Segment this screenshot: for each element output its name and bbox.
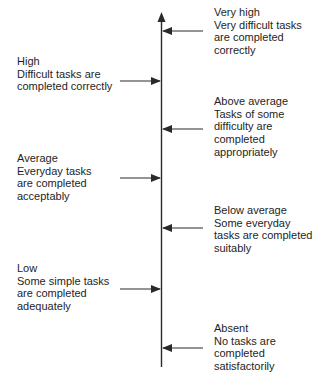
level-description-line: are completed (17, 287, 109, 300)
level-description-line: suitably (214, 242, 312, 255)
level-label-high: High Difficult tasks are completed corre… (17, 55, 112, 93)
level-description-line: tasks are completed (214, 229, 312, 242)
level-description-line: completed (214, 347, 276, 360)
level-label-below-average: Below average Some everyday tasks are co… (214, 204, 312, 255)
level-label-absent: Absent No tasks are completed satisfacto… (214, 322, 276, 373)
level-description-line: Some everyday (214, 217, 312, 230)
level-label-very-high: Very high Very difficult tasks are compl… (214, 6, 302, 57)
level-title: Average (17, 152, 92, 165)
level-label-above-average: Above average Tasks of some difficulty a… (214, 95, 288, 159)
level-description-line: are completed (214, 31, 302, 44)
level-description-line: adequately (17, 300, 109, 313)
level-description-line: Some simple tasks (17, 275, 109, 288)
level-description-line: Tasks of some (214, 108, 288, 121)
level-title: Below average (214, 204, 312, 217)
performance-scale-diagram: Very high Very difficult tasks are compl… (0, 0, 325, 387)
level-description-line: difficulty are (214, 120, 288, 133)
level-description-line: Very difficult tasks (214, 19, 302, 32)
vertical-axis (158, 12, 166, 367)
level-label-average: Average Everyday tasks are completed acc… (17, 152, 92, 203)
level-title: Low (17, 262, 109, 275)
axis-up-arrowhead-icon (158, 12, 166, 22)
level-description-line: completed (214, 133, 288, 146)
level-description-line: No tasks are (214, 335, 276, 348)
level-description-line: correctly (214, 44, 302, 57)
level-description-line: satisfactorily (214, 360, 276, 373)
level-description-line: acceptably (17, 190, 92, 203)
level-description-line: completed correctly (17, 80, 112, 93)
level-description-line: appropriately (214, 146, 288, 159)
level-title: Very high (214, 6, 302, 19)
level-description-line: are completed (17, 177, 92, 190)
level-description-line: Everyday tasks (17, 165, 92, 178)
level-title: Above average (214, 95, 288, 108)
level-description-line: Difficult tasks are (17, 68, 112, 81)
level-title: High (17, 55, 112, 68)
level-label-low: Low Some simple tasks are completed adeq… (17, 262, 109, 313)
level-title: Absent (214, 322, 276, 335)
